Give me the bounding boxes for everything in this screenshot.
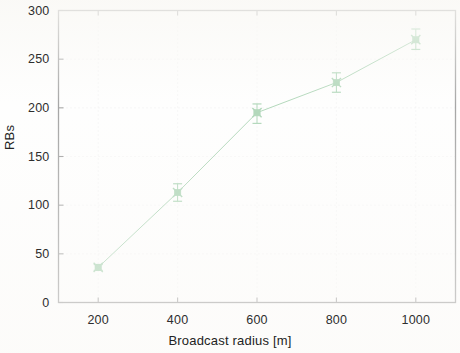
data-point-marker [411, 35, 420, 44]
y-tick-label: 50 [0, 247, 50, 261]
series-line [98, 40, 416, 268]
y-tick-label: 100 [0, 198, 50, 212]
y-tick-label: 300 [0, 4, 50, 18]
data-point-marker [94, 263, 103, 272]
y-tick-label: 150 [0, 150, 50, 164]
y-tick-label: 250 [0, 52, 50, 66]
x-tick-label: 1000 [401, 313, 430, 327]
line-chart-plot [0, 0, 460, 353]
axis-ticks [59, 11, 416, 303]
x-tick-label: 800 [326, 313, 347, 327]
x-tick-label: 200 [87, 313, 108, 327]
y-tick-label: 200 [0, 101, 50, 115]
y-axis-title: RBs [2, 125, 17, 150]
x-axis-title: Broadcast radius [m] [0, 333, 460, 348]
data-point-marker [252, 108, 261, 117]
x-tick-label: 400 [167, 313, 188, 327]
y-tick-label: 0 [0, 296, 50, 310]
grid-lines [59, 11, 456, 303]
x-tick-label: 600 [246, 313, 267, 327]
chart-figure: 050100150200250300 2004006008001000 RBs … [0, 0, 460, 353]
data-point-marker [173, 188, 182, 197]
data-point-marker [332, 78, 341, 87]
